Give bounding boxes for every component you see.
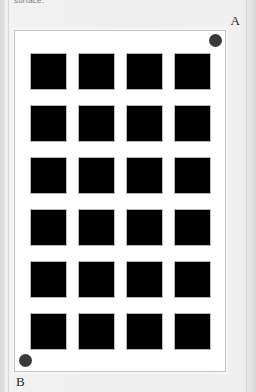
grid-panel [14,30,226,372]
grid-cell [126,157,163,194]
grid-cell [126,313,163,350]
grid-cell [78,261,115,298]
grid-cell [78,157,115,194]
grid-cell [78,209,115,246]
grid-cell [174,105,211,142]
grid-cell [126,261,163,298]
corner-label-b: B [16,374,25,390]
corner-label-a: A [231,13,240,29]
caption-strip: surface. [0,0,256,9]
grid-cell [30,157,67,194]
grid-cell [30,261,67,298]
grid-cell [30,53,67,90]
calibration-card: surface. A B [0,0,256,392]
grid-cell [126,209,163,246]
grid-cell [78,105,115,142]
square-grid [15,31,225,371]
grid-cell [174,53,211,90]
caption-text: surface. [14,0,44,5]
grid-cell [174,209,211,246]
grid-cell [126,53,163,90]
card-seam-left [8,0,9,392]
grid-cell [30,105,67,142]
grid-cell [126,105,163,142]
grid-cell [174,313,211,350]
card-seam-right [246,0,247,392]
grid-cell [30,313,67,350]
fiducial-marker-a [209,34,222,47]
grid-cell [174,157,211,194]
grid-cell [78,313,115,350]
fiducial-marker-b [19,354,32,367]
grid-cell [174,261,211,298]
grid-cell [30,209,67,246]
grid-cell [78,53,115,90]
